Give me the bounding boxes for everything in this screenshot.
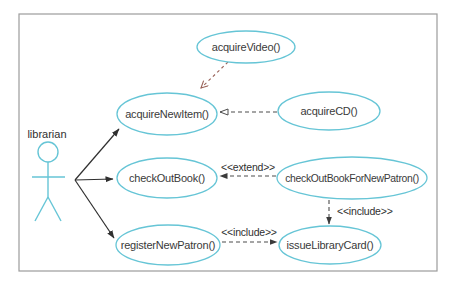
usecase-acquirecd-label: acquireCD(): [300, 105, 357, 117]
usecase-acquirenewitem: acquireNewItem(): [117, 93, 217, 135]
usecase-checkoutbook: checkOutBook(): [117, 158, 217, 198]
usecase-acquirecd: acquireCD(): [278, 92, 380, 130]
usecase-acquirevideo: acquireVideo(): [197, 31, 295, 63]
extend-label: <<extend>>: [221, 161, 275, 173]
use-case-diagram-canvas: librarian <<extend>> <<include>> <<inclu…: [0, 0, 460, 286]
actor-label: librarian: [27, 128, 66, 140]
usecase-acquirevideo-label: acquireVideo(): [212, 41, 281, 53]
usecase-registernewpatron: registerNewPatron(): [116, 225, 220, 265]
usecase-checkoutbookfornewpatron-label: checkOutBookForNewPatron(): [285, 173, 419, 184]
use-case-diagram-figure: librarian <<extend>> <<include>> <<inclu…: [0, 0, 460, 286]
usecase-checkoutbook-label: checkOutBook(): [129, 172, 205, 184]
include-label-horizontal: <<include>>: [221, 226, 277, 238]
usecase-registernewpatron-label: registerNewPatron(): [121, 239, 216, 251]
usecase-issuelibrarycard: issueLibraryCard(): [279, 226, 381, 264]
usecase-acquirenewitem-label: acquireNewItem(): [125, 108, 209, 120]
usecase-checkoutbookfornewpatron: checkOutBookForNewPatron(): [277, 157, 427, 199]
include-label-vertical: <<include>>: [337, 205, 393, 217]
usecase-issuelibrarycard-label: issueLibraryCard(): [287, 239, 374, 251]
